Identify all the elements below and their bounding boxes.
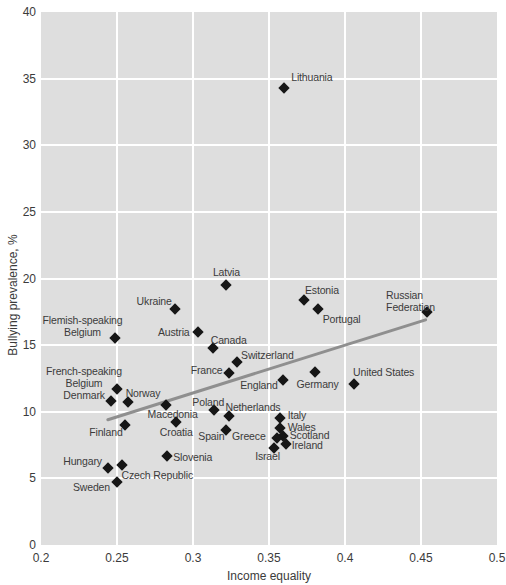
points-layer: LithuaniaLatviaEstoniaUkrainePortugalRus… [41,12,497,545]
x-tick-label-0.45: 0.45 [409,551,432,565]
point-label-greece: Greece [232,430,266,442]
point-label-finland: Finland [89,426,122,438]
data-point-united-states [348,378,359,389]
y-tick-label-0: 0 [4,538,36,552]
point-label-poland: Poland [192,396,224,408]
point-label-france: France [191,364,223,376]
point-label-croatia: Croatia [160,426,193,438]
point-label-switzerland: Switzerland [241,349,294,361]
data-point-latvia [221,279,232,290]
point-label-spain: Spain [198,430,224,442]
x-axis-title: Income equality [227,569,311,583]
x-tick-label-0.35: 0.35 [257,551,280,565]
point-label-latvia: Latvia [213,266,240,278]
data-point-germany [309,366,320,377]
point-label-england: England [240,379,277,391]
x-tick-label-0.4: 0.4 [337,551,354,565]
x-tick-label-0.3: 0.3 [185,551,202,565]
y-tick-label-40: 40 [4,5,36,19]
point-label-flemish-speaking-belgium: Flemish-speaking Belgium [43,314,123,338]
y-tick-label-20: 20 [4,272,36,286]
x-tick-label-0.25: 0.25 [105,551,128,565]
data-point-estonia [298,294,309,305]
y-tick-label-15: 15 [4,338,36,352]
point-label-ireland: Ireland [292,439,323,451]
plot-area: LithuaniaLatviaEstoniaUkrainePortugalRus… [41,12,497,545]
point-label-united-states: United States [353,366,414,378]
bullying-vs-income-equality-chart: Bullying prevalence, % LithuaniaLatviaEs… [0,0,506,585]
data-point-austria [192,326,203,337]
point-label-estonia: Estonia [305,284,339,296]
x-tick-label-0.2: 0.2 [33,551,50,565]
data-point-portugal [312,303,323,314]
data-point-denmark [105,395,116,406]
y-tick-label-30: 30 [4,138,36,152]
data-point-slovenia [161,450,172,461]
y-tick-label-35: 35 [4,72,36,86]
y-tick-label-10: 10 [4,405,36,419]
point-label-hungary: Hungary [63,455,102,467]
point-label-portugal: Portugal [323,313,361,325]
point-label-italy: Italy [288,409,307,421]
point-label-russian-federation: Russian Federation [386,289,460,313]
point-label-lithuania: Lithuania [291,71,332,83]
point-label-israel: Israel [255,450,280,462]
point-label-denmark: Denmark [63,389,105,401]
data-point-lithuania [279,82,290,93]
point-label-austria: Austria [158,326,190,338]
point-label-ukraine: Ukraine [137,295,172,307]
x-tick-label-0.5: 0.5 [489,551,506,565]
y-tick-label-5: 5 [4,471,36,485]
point-label-sweden: Sweden [73,481,110,493]
point-label-canada: Canada [211,334,247,346]
point-label-french-speaking-belgium: French-speaking Belgium [46,365,122,389]
point-label-slovenia: Slovenia [173,451,212,463]
data-point-hungary [102,462,113,473]
data-point-england [277,374,288,385]
point-label-czech-republic: Czech Republic [122,469,193,481]
data-point-france [224,367,235,378]
y-tick-label-25: 25 [4,205,36,219]
point-label-norway: Norway [126,387,161,399]
point-label-germany: Germany [297,378,339,390]
point-label-netherlands: Netherlands [225,401,280,413]
